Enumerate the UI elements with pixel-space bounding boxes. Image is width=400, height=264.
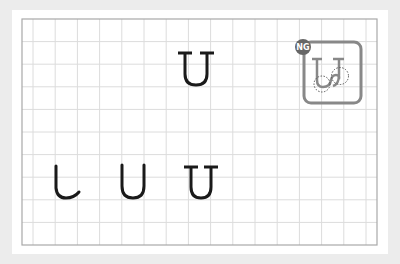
practice-step-1-stroke — [56, 166, 79, 198]
practice-grid — [0, 0, 400, 264]
ng-example — [295, 39, 361, 103]
grid-lines — [22, 19, 377, 245]
practice-step-3-stroke — [184, 167, 218, 198]
ng-badge — [295, 39, 311, 55]
model-character-u — [178, 53, 214, 85]
practice-step-2-stroke — [122, 165, 144, 198]
ng-incorrect-u — [312, 59, 344, 87]
